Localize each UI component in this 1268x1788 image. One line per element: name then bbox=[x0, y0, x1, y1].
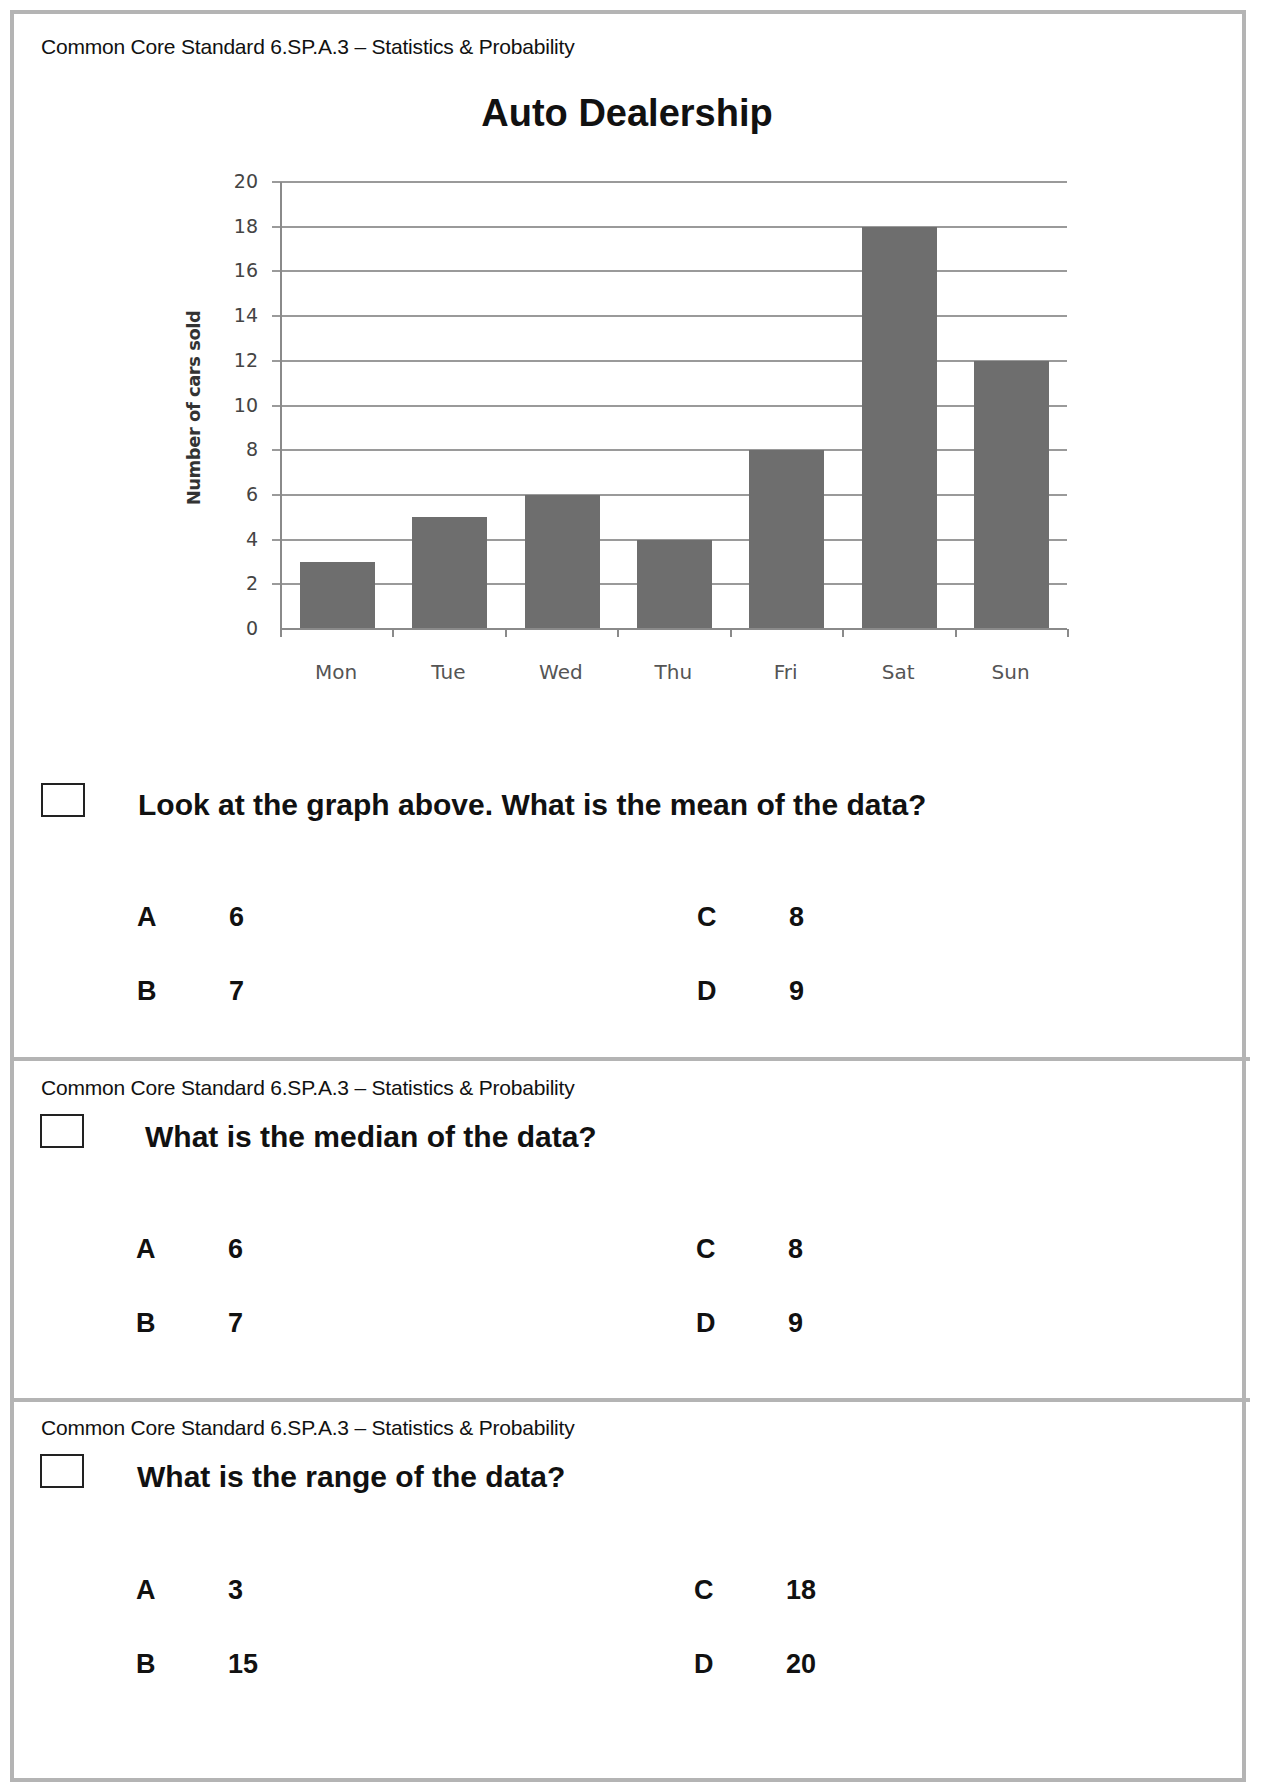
bar-sat bbox=[862, 227, 937, 629]
answer-checkbox[interactable] bbox=[40, 1454, 84, 1488]
plot-area bbox=[280, 182, 1067, 629]
option-letter[interactable]: B bbox=[136, 1308, 156, 1339]
question-text: Look at the graph above. What is the mea… bbox=[138, 788, 926, 822]
x-tick-label: Sat bbox=[842, 660, 954, 684]
section-divider bbox=[10, 1398, 1250, 1402]
bar-thu bbox=[637, 540, 712, 629]
x-tick bbox=[1067, 629, 1069, 637]
option-value[interactable]: 8 bbox=[789, 902, 804, 933]
option-letter[interactable]: A bbox=[136, 1575, 156, 1606]
y-tick-label: 12 bbox=[210, 349, 258, 371]
gridline bbox=[272, 270, 1067, 272]
question-text: What is the range of the data? bbox=[137, 1460, 565, 1494]
option-value[interactable]: 20 bbox=[786, 1649, 816, 1680]
x-tick bbox=[955, 629, 957, 637]
answer-checkbox[interactable] bbox=[41, 783, 85, 817]
y-axis-label: Number of cars sold bbox=[183, 311, 204, 506]
bar-tue bbox=[412, 517, 487, 629]
gridline bbox=[272, 360, 1067, 362]
option-letter[interactable]: C bbox=[697, 902, 717, 933]
gridline bbox=[272, 405, 1067, 407]
standard-header: Common Core Standard 6.SP.A.3 – Statisti… bbox=[41, 35, 575, 59]
option-value[interactable]: 18 bbox=[786, 1575, 816, 1606]
bar-mon bbox=[300, 562, 375, 629]
bar-wed bbox=[525, 495, 600, 629]
y-tick-label: 18 bbox=[210, 215, 258, 237]
x-tick bbox=[842, 629, 844, 637]
standard-header: Common Core Standard 6.SP.A.3 – Statisti… bbox=[41, 1076, 575, 1100]
x-tick bbox=[617, 629, 619, 637]
x-tick-label: Mon bbox=[280, 660, 392, 684]
gridline bbox=[272, 449, 1067, 451]
y-tick-label: 10 bbox=[210, 394, 258, 416]
option-value[interactable]: 7 bbox=[228, 1308, 243, 1339]
option-value[interactable]: 9 bbox=[789, 976, 804, 1007]
x-tick bbox=[280, 629, 282, 637]
y-axis-line bbox=[280, 182, 282, 629]
gridline bbox=[272, 226, 1067, 228]
standard-header: Common Core Standard 6.SP.A.3 – Statisti… bbox=[41, 1416, 575, 1440]
option-value[interactable]: 9 bbox=[788, 1308, 803, 1339]
option-letter[interactable]: B bbox=[137, 976, 157, 1007]
section-divider bbox=[10, 1057, 1250, 1061]
x-tick bbox=[730, 629, 732, 637]
x-tick bbox=[392, 629, 394, 637]
x-tick-label: Wed bbox=[505, 660, 617, 684]
option-letter[interactable]: A bbox=[136, 1234, 156, 1265]
option-letter[interactable]: C bbox=[694, 1575, 714, 1606]
question-text: What is the median of the data? bbox=[145, 1120, 597, 1154]
option-letter[interactable]: D bbox=[696, 1308, 716, 1339]
option-value[interactable]: 6 bbox=[229, 902, 244, 933]
y-tick-label: 16 bbox=[210, 259, 258, 281]
chart-title-text: Auto Dealership bbox=[481, 92, 772, 134]
chart-title: Auto Dealership bbox=[0, 92, 1268, 135]
bar-sun bbox=[974, 361, 1049, 629]
y-tick-label: 0 bbox=[210, 617, 258, 639]
y-tick-label: 4 bbox=[210, 528, 258, 550]
option-value[interactable]: 6 bbox=[228, 1234, 243, 1265]
x-tick-label: Fri bbox=[730, 660, 842, 684]
x-tick-label: Sun bbox=[955, 660, 1067, 684]
gridline bbox=[272, 181, 1067, 183]
option-value[interactable]: 8 bbox=[788, 1234, 803, 1265]
y-tick-label: 14 bbox=[210, 304, 258, 326]
option-letter[interactable]: B bbox=[136, 1649, 156, 1680]
x-tick-label: Thu bbox=[617, 660, 729, 684]
x-axis-line bbox=[280, 628, 1067, 630]
answer-checkbox[interactable] bbox=[40, 1114, 84, 1148]
bar-fri bbox=[749, 450, 824, 629]
option-letter[interactable]: C bbox=[696, 1234, 716, 1265]
y-tick-label: 2 bbox=[210, 572, 258, 594]
option-letter[interactable]: D bbox=[697, 976, 717, 1007]
gridline bbox=[272, 494, 1067, 496]
x-tick-label: Tue bbox=[392, 660, 504, 684]
option-value[interactable]: 3 bbox=[228, 1575, 243, 1606]
y-tick-label: 8 bbox=[210, 438, 258, 460]
option-letter[interactable]: D bbox=[694, 1649, 714, 1680]
y-tick-label: 20 bbox=[210, 170, 258, 192]
x-tick bbox=[505, 629, 507, 637]
y-tick-label: 6 bbox=[210, 483, 258, 505]
option-value[interactable]: 7 bbox=[229, 976, 244, 1007]
option-letter[interactable]: A bbox=[137, 902, 157, 933]
gridline bbox=[272, 315, 1067, 317]
option-value[interactable]: 15 bbox=[228, 1649, 258, 1680]
